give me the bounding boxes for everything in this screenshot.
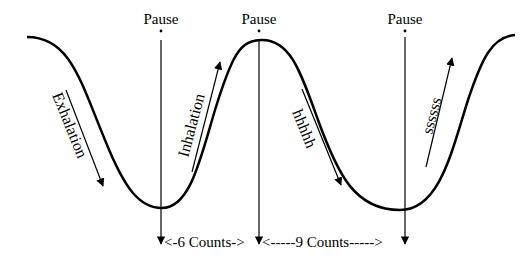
pause-label-2: Pause (242, 11, 277, 27)
pause-dot-1 (160, 30, 163, 33)
pause-dot-3 (404, 30, 407, 33)
breath-wave-curve (27, 35, 515, 210)
pause-label-1: Pause (144, 11, 179, 27)
pause-dot-2 (258, 30, 261, 33)
count-label-9: <-----9 Counts-----> (262, 234, 383, 250)
count-label-6: <-6 Counts-> (164, 234, 245, 250)
ssssss-label: ssssss (418, 95, 444, 135)
exhalation-label: Exhalation (49, 90, 91, 161)
breathing-diagram: Pause Pause Pause Exhalation Inhalation … (0, 0, 520, 266)
pause-label-3: Pause (388, 11, 423, 27)
diagram-canvas: Pause Pause Pause Exhalation Inhalation … (0, 0, 520, 266)
